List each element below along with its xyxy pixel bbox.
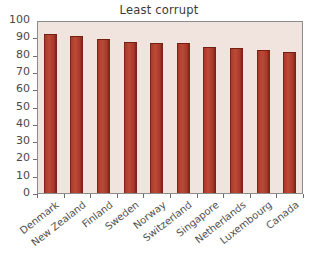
bar <box>203 47 216 193</box>
bar <box>44 34 57 193</box>
y-axis-tick-label: 10 <box>16 169 30 182</box>
y-axis-tick-label: 70 <box>16 65 30 78</box>
chart-container: Least corrupt 0102030405060708090100 Den… <box>0 0 318 277</box>
bars-layer <box>38 22 302 193</box>
y-axis: 0102030405060708090100 <box>0 21 37 194</box>
bar <box>150 43 163 193</box>
y-axis-tick-label: 20 <box>16 151 30 164</box>
y-axis-tick-label: 40 <box>16 117 30 130</box>
bar <box>257 50 270 193</box>
y-axis-tick-label: 100 <box>9 13 30 26</box>
y-axis-tick-label: 80 <box>16 48 30 61</box>
bar <box>70 36 83 193</box>
chart-title: Least corrupt <box>0 3 318 17</box>
y-axis-tick-label: 50 <box>16 100 30 113</box>
y-axis-tick-label: 0 <box>23 186 30 199</box>
plot-area <box>37 21 303 194</box>
bar <box>177 43 190 193</box>
x-axis-labels: DenmarkNew ZealandFinlandSwedenNorwaySwi… <box>0 199 318 277</box>
y-axis-tick-label: 60 <box>16 82 30 95</box>
bar <box>97 39 110 193</box>
y-axis-tick-label: 90 <box>16 30 30 43</box>
x-axis-tick-mark <box>37 194 38 198</box>
y-axis-tick-label: 30 <box>16 134 30 147</box>
